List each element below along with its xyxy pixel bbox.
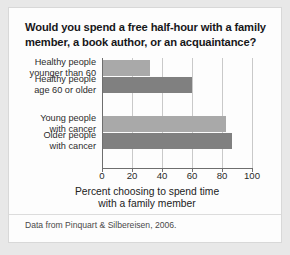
category-label-line: age 60 or older [10,85,96,96]
category-label-line: Older people [10,130,96,141]
gridline-40 [162,58,163,168]
source-note: Data from Pinquart & Silbereisen, 2006. [25,220,176,230]
category-label-line: with cancer [10,141,96,152]
bar [103,77,192,93]
category-label-line: Healthy people [10,74,96,85]
x-axis-label: Percent choosing to spend timewith a fam… [25,186,269,211]
bar [103,133,232,149]
x-axis-line [102,168,252,169]
footer-divider [9,214,281,215]
category-label-line: Healthy people [10,57,96,68]
tick-label-40: 40 [157,170,168,181]
chart-card: Would you spend a free half-hour with a … [8,7,282,243]
category-label: Older peoplewith cancer [10,130,96,151]
bar [103,116,226,132]
tick-label-20: 20 [127,170,138,181]
plot-area: Healthy peopleyounger than 60Healthy peo… [102,58,252,168]
x-axis-label-line: Percent choosing to spend time [25,186,269,198]
gridline-100 [252,58,253,168]
tick-label-80: 80 [217,170,228,181]
x-axis-label-line: with a family member [25,198,269,210]
tick-label-60: 60 [187,170,198,181]
gridline-60 [192,58,193,168]
tick-label-0: 0 [99,170,104,181]
tick-label-100: 100 [244,170,260,181]
category-label-line: Young people [10,113,96,124]
gridline-80 [222,58,223,168]
category-label: Healthy peopleage 60 or older [10,74,96,95]
bar [103,60,150,76]
chart-title: Would you spend a free half-hour with a … [25,20,269,49]
